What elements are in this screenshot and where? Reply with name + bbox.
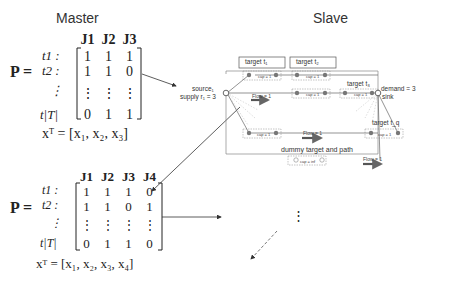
flow-label: Flow = 1 bbox=[252, 93, 271, 99]
target-t3-label: target t₃ bbox=[347, 80, 370, 87]
target-t1-label: target t₁ bbox=[245, 58, 267, 65]
cap-label: cap = 1 bbox=[354, 92, 367, 97]
diagram-graphics bbox=[0, 0, 460, 281]
matrix-2-brackets bbox=[76, 183, 162, 250]
cap-label: cap = 1 bbox=[306, 92, 319, 97]
arrow-slave-to-master bbox=[152, 107, 240, 191]
cap-inf-label: cap = inf bbox=[300, 159, 315, 164]
demand-label: demand = 3 bbox=[381, 85, 416, 92]
matrix-1-brackets bbox=[77, 48, 141, 119]
source-node bbox=[223, 90, 229, 96]
target-tq-label: target t_q bbox=[372, 119, 399, 126]
flow-label: Flow = 1 bbox=[303, 130, 322, 136]
cap-label: cap = 1 bbox=[378, 132, 391, 137]
cap-label: cap = 1 bbox=[257, 132, 270, 137]
flow-label: Flow = 1 bbox=[363, 156, 382, 162]
source-label: source₁ bbox=[192, 85, 214, 92]
dashed-arrow bbox=[251, 231, 277, 259]
supply-label: supply r₁ = 3 bbox=[180, 93, 216, 100]
sink-node bbox=[375, 90, 381, 96]
dummy-label: dummy target and path bbox=[281, 146, 353, 153]
cap-label: cap = 1 bbox=[306, 74, 319, 79]
sink-label: sink bbox=[382, 93, 394, 100]
target-t2-label: target t₂ bbox=[296, 58, 319, 65]
arrow-master-to-slave bbox=[142, 74, 176, 86]
continuation-ellipsis: ⋮ bbox=[292, 208, 305, 224]
cap-label: cap = 1 bbox=[258, 74, 271, 79]
